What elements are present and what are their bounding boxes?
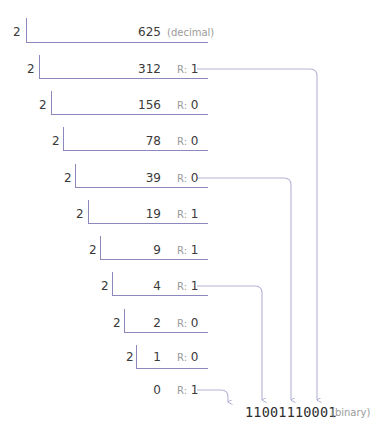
divisor: 2 xyxy=(64,171,72,185)
quotient: 4 xyxy=(101,279,161,293)
remainder-value: 1 xyxy=(191,279,199,293)
remainder-value: 0 xyxy=(191,316,199,330)
remainder-value: 0 xyxy=(191,98,199,112)
remainder-label: R: xyxy=(177,209,187,220)
binary-result: 11001110001 xyxy=(245,404,337,420)
quotient: 625 xyxy=(101,25,161,39)
remainder: R: 1 xyxy=(177,207,198,222)
remainder: R: 0 xyxy=(177,350,198,365)
remainder-value: 0 xyxy=(191,171,199,185)
quotient: 1 xyxy=(101,350,161,364)
conversion-diagram: 2 625 (decimal) 2 312 R: 1 2 156 R: 0 2 … xyxy=(0,0,386,440)
divisor: 2 xyxy=(27,62,35,76)
quotient: 39 xyxy=(101,171,161,185)
remainder-label: R: xyxy=(177,173,187,184)
remainder-label: R: xyxy=(177,100,187,111)
remainder-label: R: xyxy=(177,64,187,75)
remainder-value: 0 xyxy=(191,134,199,148)
arrow-0 xyxy=(197,390,228,402)
quotient: 156 xyxy=(101,98,161,112)
remainder-value: 1 xyxy=(191,243,199,257)
quotient: 78 xyxy=(101,134,161,148)
remainder-label: R: xyxy=(177,281,187,292)
quotient: 2 xyxy=(101,316,161,330)
remainder: R: 0 xyxy=(177,316,198,331)
remainder-label: R: xyxy=(177,318,187,329)
quotient: 0 xyxy=(101,383,161,397)
arrow-312 xyxy=(197,69,317,400)
arrow-4 xyxy=(197,286,262,400)
divisor: 2 xyxy=(39,98,47,112)
divisor: 2 xyxy=(52,134,60,148)
remainder: R: 0 xyxy=(177,171,198,186)
remainder-value: 0 xyxy=(191,350,199,364)
remainder-label: R: xyxy=(177,385,187,396)
remainder-value: 1 xyxy=(191,207,199,221)
remainder-label: R: xyxy=(177,245,187,256)
divisor: 2 xyxy=(89,243,97,257)
divisor: 2 xyxy=(13,25,21,39)
remainder: R: 1 xyxy=(177,243,198,258)
divisor: 2 xyxy=(76,207,84,221)
binary-note: (binary) xyxy=(331,406,370,420)
remainder-label: R: xyxy=(177,352,187,363)
remainder-value: 1 xyxy=(191,62,199,76)
quotient: 19 xyxy=(101,207,161,221)
remainder-value: 1 xyxy=(191,383,199,397)
quotient: 9 xyxy=(101,243,161,257)
remainder: R: 0 xyxy=(177,134,198,149)
quotient: 312 xyxy=(101,62,161,76)
remainder: R: 0 xyxy=(177,98,198,113)
remainder-label: R: xyxy=(177,136,187,147)
decimal-note: (decimal) xyxy=(167,26,214,40)
remainder: R: 1 xyxy=(177,62,198,77)
remainder: R: 1 xyxy=(177,383,198,398)
arrow-39 xyxy=(197,178,291,400)
remainder: R: 1 xyxy=(177,279,198,294)
